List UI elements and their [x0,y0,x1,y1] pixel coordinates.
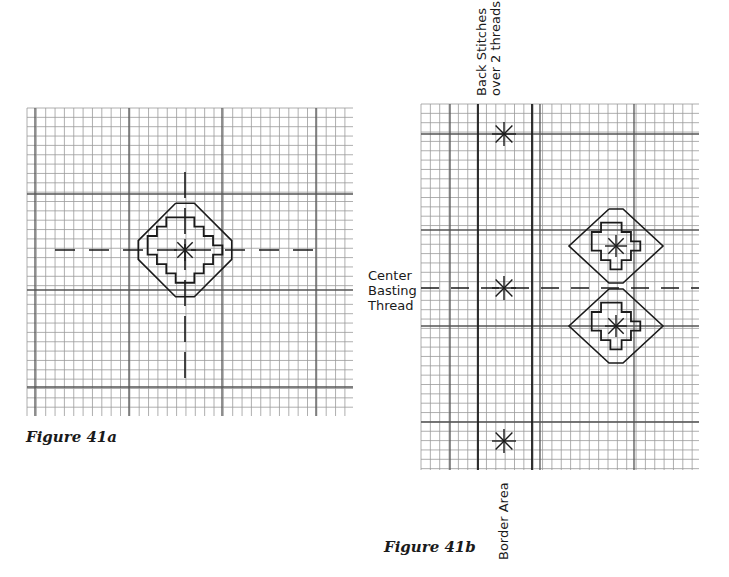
figure-41a-caption: Figure 41a [26,428,117,446]
figure-41a-chart [0,0,729,577]
center-basting-label: Center Basting Thread [368,268,412,313]
center-line2: Basting [368,283,412,298]
back-stitches-label: Back Stitches over 2 threads [475,1,503,96]
border-area-text: Border Area [497,482,511,560]
center-line3: Thread [368,298,412,313]
back-stitches-line1: Back Stitches [475,1,489,96]
back-stitches-line2: over 2 threads [489,1,503,96]
figure-41b-caption: Figure 41b [384,538,476,556]
border-area-label: Border Area [497,482,511,560]
center-line1: Center [368,268,412,283]
